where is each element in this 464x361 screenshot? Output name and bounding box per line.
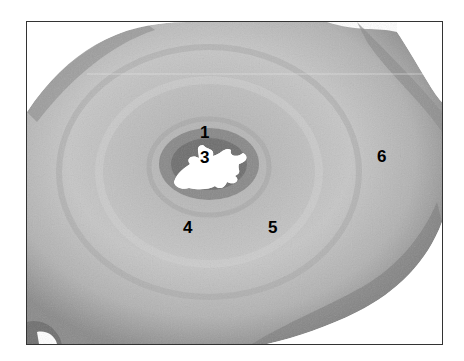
label-6: 6 xyxy=(377,148,386,165)
tissue-section-image xyxy=(27,22,442,344)
label-5: 5 xyxy=(268,219,277,236)
label-3: 3 xyxy=(200,149,209,166)
label-1: 1 xyxy=(200,124,209,141)
label-4: 4 xyxy=(183,219,192,236)
micrograph-frame xyxy=(26,21,443,345)
